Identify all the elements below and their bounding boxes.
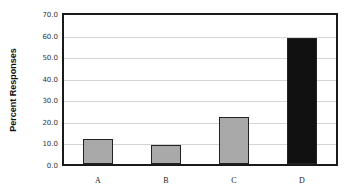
y-tick-label: 60.0 xyxy=(22,33,58,41)
y-tick-label: 40.0 xyxy=(22,76,58,84)
bar-d xyxy=(287,38,317,164)
y-tick-label: 20.0 xyxy=(22,119,58,127)
x-tick-label: D xyxy=(292,176,312,185)
y-tick-label: 70.0 xyxy=(22,11,58,19)
x-tick-label: A xyxy=(88,176,108,185)
plot-area xyxy=(62,13,338,166)
y-tick-label: 10.0 xyxy=(22,140,58,148)
x-tick-label: B xyxy=(156,176,176,185)
y-tick-label: 30.0 xyxy=(22,97,58,105)
y-axis-title-wrap: Percent Responses xyxy=(6,40,20,140)
y-tick-label: 0.0 xyxy=(22,162,58,170)
bar-c xyxy=(219,117,249,164)
y-tick-label: 50.0 xyxy=(22,54,58,62)
bar-b xyxy=(151,145,181,164)
x-tick-label: C xyxy=(224,176,244,185)
bar-a xyxy=(83,139,113,164)
y-axis-title: Percent Responses xyxy=(8,48,18,132)
